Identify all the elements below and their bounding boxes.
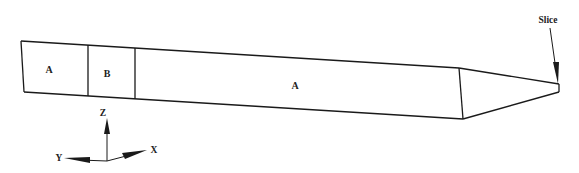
taper-start-edge bbox=[459, 68, 463, 119]
y-axis-arrowhead bbox=[64, 157, 90, 163]
taper-top-edge bbox=[459, 68, 559, 84]
taper-bottom-edge bbox=[463, 92, 559, 119]
region-label-b: B bbox=[104, 68, 111, 79]
z-axis-arrowhead bbox=[104, 118, 110, 134]
slice-arrow-head bbox=[553, 62, 559, 84]
axes-triad: Z Y X bbox=[56, 108, 158, 163]
region-label-a-left: A bbox=[45, 64, 53, 75]
x-axis-label: X bbox=[151, 145, 158, 155]
left-edge bbox=[21, 41, 24, 92]
top-edge bbox=[21, 41, 459, 68]
beam-diagram: A B A Slice Z Y X bbox=[0, 0, 579, 173]
z-axis-label: Z bbox=[100, 108, 106, 118]
y-axis-label: Y bbox=[56, 153, 63, 163]
bottom-edge bbox=[24, 92, 463, 119]
slice-label: Slice bbox=[539, 15, 558, 25]
region-label-a-right: A bbox=[291, 80, 299, 91]
x-axis-arrowhead bbox=[122, 150, 147, 159]
